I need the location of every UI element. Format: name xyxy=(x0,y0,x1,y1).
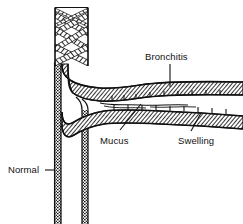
label-mucus: Mucus xyxy=(100,135,129,146)
label-bronchitis: Bronchitis xyxy=(145,51,188,62)
diagram-canvas: Bronchitis Mucus Swelling Normal xyxy=(0,0,243,224)
bronchitis-diagram: Bronchitis Mucus Swelling Normal xyxy=(0,0,243,224)
label-swelling: Swelling xyxy=(178,135,214,146)
trachea-left-wall xyxy=(55,62,62,224)
label-normal: Normal xyxy=(8,164,39,175)
